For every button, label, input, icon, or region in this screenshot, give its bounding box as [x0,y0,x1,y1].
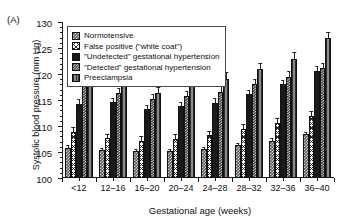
x-tick [62,178,63,182]
y-tick-minor [60,142,63,143]
error-bar-cap [304,132,307,133]
y-tick-minor [60,105,63,106]
y-tick: 115 [58,100,62,101]
error-bar-cap [270,138,273,139]
error-bar-cap [174,134,177,135]
legend-item-undetected: "Undetected" gestational hypertension [72,52,220,62]
y-tick-minor [60,131,63,132]
x-tick-label: 16–20 [134,183,159,193]
y-tick-label: 110 [37,122,52,133]
y-tick-minor [60,168,63,169]
x-tick-minor [283,178,284,181]
error-bar-cap [66,145,69,146]
y-tick-label: 105 [36,148,52,159]
x-tick-label: 28–32 [236,183,261,193]
y-tick-minor [60,136,63,137]
x-tick [266,178,267,182]
y-tick-minor [60,69,63,70]
x-tick [130,178,131,182]
error-bar-cap [253,79,256,80]
bar-preeclampsia-0 [87,81,93,178]
y-tick-minor [60,79,63,80]
error-bar-cap [259,63,262,64]
y-tick-minor [60,90,63,91]
y-tick-label: 130 [36,18,52,29]
legend-swatch-undetected-icon [72,53,80,61]
error-bar-cap [310,111,313,112]
legend-item-preeclampsia: Preeclampsia [72,73,220,83]
bar-preeclampsia-6 [291,59,297,178]
x-tick [232,178,233,182]
legend-swatch-falsepositive-icon [72,42,80,50]
legend-label: Normotensive [84,31,133,40]
y-tick-minor [60,53,63,54]
legend-item-falsepositive: False positive ("white coat") [72,41,220,51]
bar-preeclampsia-5 [257,69,263,178]
x-tick-minor [113,178,114,181]
x-tick [334,178,335,182]
error-bar-cap [287,71,290,72]
error-bar-cap [202,147,205,148]
y-tick-label: 125 [36,44,52,55]
y-tick-minor [60,64,63,65]
error-bar-cap [168,149,171,150]
error-bar-cap [327,32,330,33]
error-bar [260,63,261,70]
error-bar-cap [276,118,279,119]
y-tick-minor [60,38,63,39]
y-tick: 120 [58,74,62,75]
y-tick-minor [60,27,63,28]
chart-figure: (A) Systolic blood pressure (mm Hg) Gest… [0,0,342,224]
y-tick-minor [60,116,63,117]
x-tick-label: 24–28 [202,183,227,193]
error-bar [226,72,227,79]
bar-preeclampsia-3 [189,85,195,178]
panel-label: (A) [7,14,20,25]
y-tick-label: 100 [36,174,52,185]
error-bar-cap [72,127,75,128]
legend-label: False positive ("white coat") [84,42,182,51]
error-bar-cap [247,90,250,91]
error-bar-cap [157,87,160,88]
y-tick-minor [60,84,63,85]
y-tick-minor [60,43,63,44]
legend-label: Preeclampsia [84,73,132,82]
error-bar-cap [100,148,103,149]
error-bar-cap [236,143,239,144]
x-tick-label: <12 [71,183,86,193]
error-bar-cap [321,63,324,64]
bar-preeclampsia-4 [223,79,229,178]
x-tick [300,178,301,182]
error-bar-cap [242,124,245,125]
y-tick-minor [60,121,63,122]
x-tick-minor [215,178,216,181]
x-tick-minor [79,178,80,181]
error-bar-cap [179,102,182,103]
bar-preeclampsia-1 [121,83,127,178]
legend-label: "Detected" gestational hypertension [84,63,211,72]
x-tick-minor [249,178,250,181]
error-bar-cap [213,98,216,99]
y-tick-minor [60,157,63,158]
x-tick-label: 20–24 [168,183,193,193]
y-tick-label: 120 [36,70,52,81]
y-tick-minor [60,95,63,96]
x-tick-label: 36–40 [304,183,329,193]
error-bar-cap [145,105,148,106]
x-tick [198,178,199,182]
error-bar-cap [140,136,143,137]
y-tick-minor [60,110,63,111]
x-tick-label: 12–16 [100,183,125,193]
x-tick-label: 32–36 [270,183,295,193]
x-tick-minor [147,178,148,181]
y-tick: 105 [58,152,62,153]
error-bar-cap [106,134,109,135]
y-tick-minor [60,58,63,59]
y-tick-minor [60,32,63,33]
legend-item-detected: "Detected" gestational hypertension [72,62,220,72]
legend-swatch-detected-icon [72,63,80,71]
legend-swatch-preeclampsia-icon [72,74,80,82]
error-bar-cap [134,149,137,150]
legend: NormotensiveFalse positive ("white coat"… [67,26,226,87]
x-tick-minor [317,178,318,181]
